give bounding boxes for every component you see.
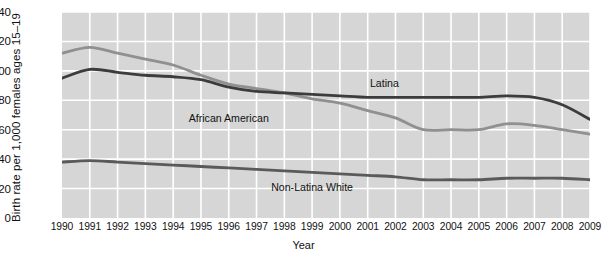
series-line-non-latina-white xyxy=(62,161,590,180)
y-axis-tick-label: 0 xyxy=(0,212,11,224)
y-axis-title: Birth rate per 1,000 females ages 15–19 xyxy=(10,14,22,222)
y-axis-tick-label: 80 xyxy=(0,94,11,106)
series-label-non-latina-white: Non-Latina White xyxy=(271,181,353,193)
y-axis-tick-label: 40 xyxy=(0,153,11,165)
y-axis-tick-label: 100 xyxy=(0,65,11,77)
y-axis-tick-label: 140 xyxy=(0,6,11,18)
x-axis-title: Year xyxy=(0,239,607,251)
birth-rate-line-chart: Birth rate per 1,000 females ages 15–19 … xyxy=(0,0,607,268)
series-label-african-american: African American xyxy=(189,112,269,124)
series-line-latina xyxy=(62,69,590,119)
series-label-latina: Latina xyxy=(370,77,399,89)
x-axis-tick-label: 2009 xyxy=(570,221,607,232)
y-axis-tick-label: 60 xyxy=(0,124,11,136)
series-line-african-american xyxy=(62,47,590,134)
y-axis-tick-label: 20 xyxy=(0,183,11,195)
y-axis-tick-label: 120 xyxy=(0,35,11,47)
